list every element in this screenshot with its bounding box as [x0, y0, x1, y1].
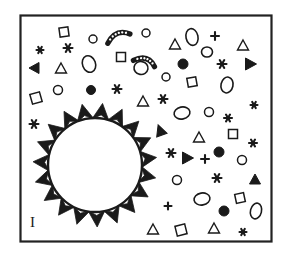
- panel-label: I: [30, 215, 35, 230]
- particle-circle-filled: [178, 59, 188, 69]
- circle-filled-icon: [214, 147, 224, 157]
- particle-star: [30, 120, 39, 128]
- particle-triangle-open: [194, 132, 205, 142]
- triangle-open-icon: [56, 63, 67, 73]
- circle-open-icon: [54, 86, 63, 95]
- ellipse-open-icon: [249, 202, 264, 220]
- circle-open-icon: [89, 35, 97, 43]
- particle-triangle-filled: [246, 58, 257, 70]
- particle-triangle-filled: [250, 174, 261, 184]
- particle-ellipse-open: [80, 54, 98, 74]
- particle-triangle-open: [170, 39, 181, 49]
- central-circle: [48, 118, 142, 212]
- circle-filled-icon: [87, 86, 96, 95]
- particle-star: [251, 102, 258, 108]
- triangle-open-icon: [209, 223, 220, 233]
- particle-star: [37, 47, 44, 53]
- particle-circle-open: [89, 35, 97, 43]
- square-open-icon: [235, 193, 246, 204]
- triangle-open-icon: [238, 40, 249, 50]
- particle-star: [213, 174, 222, 182]
- figure-drawing-canvas: [0, 0, 286, 254]
- ellipse-open-icon: [133, 60, 149, 75]
- particle-curved-rod: [105, 29, 130, 44]
- square-open-icon: [187, 77, 197, 87]
- particle-star: [240, 229, 247, 235]
- particle-triangle-open: [238, 40, 249, 50]
- triangle-filled-icon: [246, 58, 257, 70]
- triangle-filled-icon: [250, 174, 261, 184]
- particle-plus: [211, 32, 219, 40]
- spiked-circle-group: [33, 103, 156, 227]
- circle-filled-icon: [219, 206, 229, 216]
- square-open-icon: [59, 27, 69, 37]
- particle-circle-open: [162, 73, 170, 81]
- particle-ellipse-open: [193, 192, 211, 207]
- particle-ellipse-open: [219, 76, 234, 94]
- triangle-open-icon: [138, 96, 149, 106]
- particle-ellipse-open: [133, 60, 149, 75]
- particle-circle-open: [205, 108, 214, 117]
- ellipse-open-icon: [202, 47, 213, 57]
- particle-circle-filled: [219, 206, 229, 216]
- particle-triangle-open: [209, 223, 220, 233]
- circle-open-icon: [205, 108, 214, 117]
- particle-ellipse-open: [249, 202, 264, 220]
- particle-square-open: [235, 193, 246, 204]
- triangle-filled-icon: [29, 63, 39, 74]
- square-open-icon: [175, 224, 187, 236]
- particle-square-open: [229, 130, 238, 139]
- ellipse-open-icon: [184, 27, 199, 46]
- circle-filled-icon: [178, 59, 188, 69]
- particle-square-open: [175, 224, 187, 236]
- ellipse-open-icon: [80, 54, 98, 74]
- triangle-filled-icon: [183, 152, 194, 164]
- particle-triangle-filled: [183, 152, 194, 164]
- particle-star: [159, 95, 168, 103]
- triangle-open-icon: [148, 224, 159, 234]
- particle-square-open: [59, 27, 69, 37]
- particle-plus: [201, 155, 209, 163]
- particle-ellipse-open: [173, 105, 191, 120]
- particle-square-open: [187, 77, 197, 87]
- particle-ellipse-open: [202, 47, 213, 57]
- ellipse-open-icon: [193, 192, 211, 207]
- particle-circle-open: [142, 29, 150, 37]
- particle-circle-filled: [214, 147, 224, 157]
- circle-open-icon: [142, 29, 150, 37]
- particle-star: [249, 140, 257, 147]
- ellipse-open-icon: [219, 76, 234, 94]
- triangle-filled-icon: [153, 123, 167, 137]
- particle-triangle-open: [56, 63, 67, 73]
- curved-rod-body: [106, 30, 131, 44]
- circle-open-icon: [162, 73, 170, 81]
- particle-circle-open: [238, 156, 247, 165]
- figure-panel: I: [0, 0, 286, 254]
- ellipse-open-icon: [173, 105, 191, 120]
- particle-circle-filled: [87, 86, 96, 95]
- triangle-open-icon: [170, 39, 181, 49]
- particle-star: [224, 115, 232, 122]
- circle-open-icon: [238, 156, 247, 165]
- particle-triangle-filled: [29, 63, 39, 74]
- particle-triangle-open: [148, 224, 159, 234]
- particle-star: [218, 60, 227, 68]
- particle-square-open: [30, 92, 42, 104]
- particle-triangle-open: [138, 96, 149, 106]
- particle-square-open: [117, 53, 126, 62]
- particle-star: [64, 44, 73, 52]
- particle-star: [113, 85, 122, 93]
- square-open-icon: [30, 92, 42, 104]
- square-open-icon: [229, 130, 238, 139]
- particle-circle-open: [54, 86, 63, 95]
- square-open-icon: [117, 53, 126, 62]
- particle-star: [167, 149, 176, 157]
- particle-plus: [165, 203, 172, 210]
- circle-open-icon: [173, 176, 182, 185]
- particle-circle-open: [173, 176, 182, 185]
- particle-triangle-filled: [153, 123, 167, 137]
- triangle-open-icon: [194, 132, 205, 142]
- particle-ellipse-open: [184, 27, 199, 46]
